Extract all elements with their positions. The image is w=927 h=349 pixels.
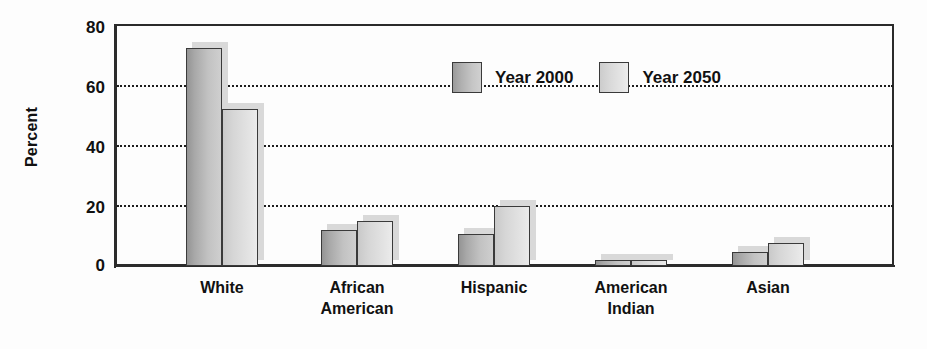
legend-entry-year-2000[interactable]: Year 2000 bbox=[452, 62, 573, 93]
bar-american-indian-year-2000[interactable] bbox=[595, 260, 631, 266]
x-label-hispanic-line1: Hispanic bbox=[414, 277, 574, 298]
x-label-asian-line1: Asian bbox=[688, 277, 848, 298]
x-label-african-american-line2: American bbox=[277, 298, 437, 319]
x-label-american-indian-line1: American bbox=[551, 277, 711, 298]
legend-swatch-year-2050-icon bbox=[599, 62, 629, 93]
x-label-american-indian: American Indian bbox=[551, 277, 711, 319]
x-label-american-indian-line2: Indian bbox=[551, 298, 711, 319]
bar-white-year-2050[interactable] bbox=[222, 109, 258, 266]
x-label-hispanic: Hispanic bbox=[414, 277, 574, 298]
x-label-african-american: African American bbox=[277, 277, 437, 319]
legend-label-year-2050: Year 2050 bbox=[642, 68, 720, 88]
bar-chart: Percent 80 60 40 20 0 White African Amer… bbox=[0, 0, 927, 349]
bar-asian-year-2000[interactable] bbox=[732, 252, 768, 266]
legend-swatch-year-2000-icon bbox=[452, 62, 482, 93]
x-label-african-american-line1: African bbox=[277, 277, 437, 298]
bar-american-indian-year-2050[interactable] bbox=[631, 260, 667, 266]
legend-entry-year-2050[interactable]: Year 2050 bbox=[599, 62, 720, 93]
bar-hispanic-year-2050[interactable] bbox=[494, 206, 530, 267]
bar-african-american-year-2050[interactable] bbox=[357, 221, 393, 266]
legend: Year 2000 Year 2050 bbox=[452, 62, 721, 93]
legend-label-year-2000: Year 2000 bbox=[495, 68, 573, 88]
bar-asian-year-2050[interactable] bbox=[768, 243, 804, 266]
bar-african-american-year-2000[interactable] bbox=[321, 230, 357, 266]
x-label-asian: Asian bbox=[688, 277, 848, 298]
bar-white-year-2000[interactable] bbox=[186, 48, 222, 266]
bar-hispanic-year-2000[interactable] bbox=[458, 234, 494, 266]
